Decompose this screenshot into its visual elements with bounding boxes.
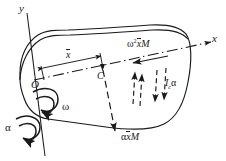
inertia-couple-label: Icα <box>165 78 176 88</box>
inertia-couple-arrows <box>133 68 166 106</box>
y-axis-label: y <box>19 3 24 14</box>
x-axis-label: x <box>212 33 217 44</box>
tangential-force-label: αxM <box>121 132 139 142</box>
centripetal-force-arrow <box>133 56 168 63</box>
xbar-dimension <box>41 53 103 80</box>
figure-canvas: y x O C x ω α ω2xM Icα αxM <box>0 0 226 161</box>
x-axis <box>34 42 211 80</box>
alpha-rotation-arrow <box>16 116 40 140</box>
origin-label: O <box>31 79 39 90</box>
xbar-dimension-label: x <box>66 50 70 60</box>
center-of-mass-label: C <box>97 71 104 81</box>
omega-label: ω <box>62 101 69 112</box>
alpha-label: α <box>5 122 11 133</box>
tangential-force-arrow <box>103 70 115 131</box>
centripetal-force-label: ω2xM <box>127 39 149 49</box>
